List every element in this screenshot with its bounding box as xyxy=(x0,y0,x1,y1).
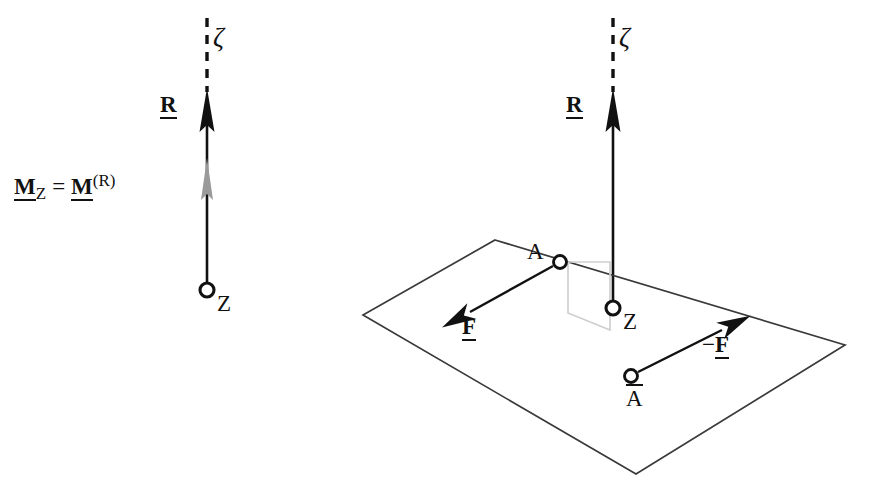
point-abar-label-text: A xyxy=(626,384,643,411)
force-f-label-text: F xyxy=(462,316,476,341)
moment-equals-sign: = xyxy=(46,174,71,199)
point-abar-marker xyxy=(625,370,638,383)
force-negf-sign: − xyxy=(702,332,715,357)
force-f-shaft xyxy=(470,266,553,312)
moment-symbol-left: M xyxy=(14,176,36,201)
right-zeta-axis-label: ζ xyxy=(619,24,630,51)
diagram-vector-layer xyxy=(0,0,873,499)
moment-subscript-z: Z xyxy=(36,184,46,203)
force-negf-label-text: F xyxy=(715,334,729,359)
force-f-label: F xyxy=(462,315,476,341)
right-resultant-label: R xyxy=(566,93,583,119)
left-moment-equation: MZ=M(R) xyxy=(14,172,116,202)
moment-superscript-r: (R) xyxy=(93,171,116,190)
force-negf-label: −F xyxy=(702,333,729,359)
reference-plane xyxy=(363,240,845,474)
right-point-z-label: Z xyxy=(623,310,637,333)
left-point-z-label: Z xyxy=(217,292,231,315)
point-abar-label: A xyxy=(626,384,643,411)
point-a-marker xyxy=(554,256,567,269)
moment-symbol-right: M xyxy=(71,176,93,201)
left-zeta-axis-label: ζ xyxy=(213,24,224,51)
point-a-label: A xyxy=(527,240,544,263)
right-resultant-label-text: R xyxy=(566,94,583,119)
left-moment-arrowhead xyxy=(201,158,213,200)
right-panel-group xyxy=(363,18,845,474)
left-panel-group xyxy=(200,18,215,297)
left-resultant-label: R xyxy=(160,93,177,119)
left-point-z-marker xyxy=(200,283,214,297)
right-point-z-marker xyxy=(606,301,620,315)
figure-canvas: ζ R MZ=M(R) Z ζ R Z A F −F A xyxy=(0,0,873,499)
left-resultant-label-text: R xyxy=(160,94,177,119)
